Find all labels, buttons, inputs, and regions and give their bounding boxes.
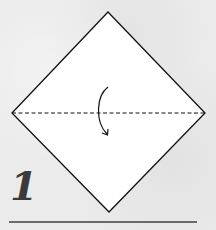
step-number: 1 (10, 166, 38, 206)
step-separator-line (9, 221, 197, 223)
paper-square-diamond (12, 12, 205, 212)
